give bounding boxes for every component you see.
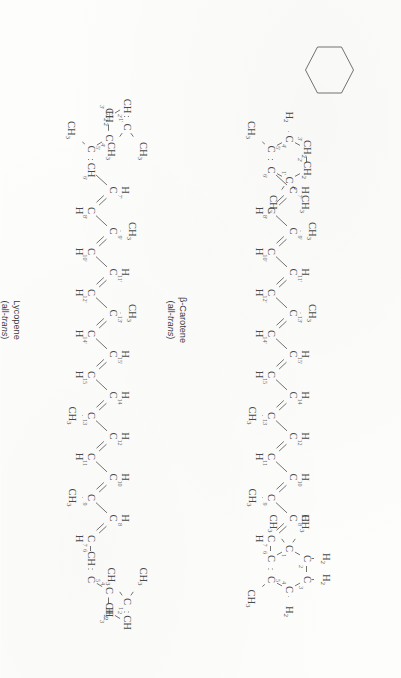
caption-ly-italic: trans (0, 316, 9, 337)
caption-lycopene-line2: (all-trans) (0, 301, 9, 340)
caption-lycopene-line1: Lycopene (11, 300, 21, 340)
caption-ly-prefix: (all- (0, 301, 9, 316)
caption-beta-carotene-line2: (all-trans) (165, 301, 175, 340)
caption-layer: β-Carotene (all-trans) Lycopene (all-tra… (0, 0, 401, 678)
caption-beta-carotene-line1: β-Carotene (177, 297, 187, 343)
caption-bc-suffix: ) (165, 336, 175, 339)
caption-bc-italic: trans (165, 316, 175, 337)
caption-ly-suffix: ) (0, 336, 9, 339)
carotenoid-figure: C7'HC8'HC9'CH3C10'HC11'HC12'HC13'CH3C14'… (0, 0, 401, 678)
caption-bc-prefix: (all- (165, 301, 175, 316)
figure-page: C7'HC8'HC9'CH3C10'HC11'HC12'HC13'CH3C14'… (0, 0, 401, 678)
